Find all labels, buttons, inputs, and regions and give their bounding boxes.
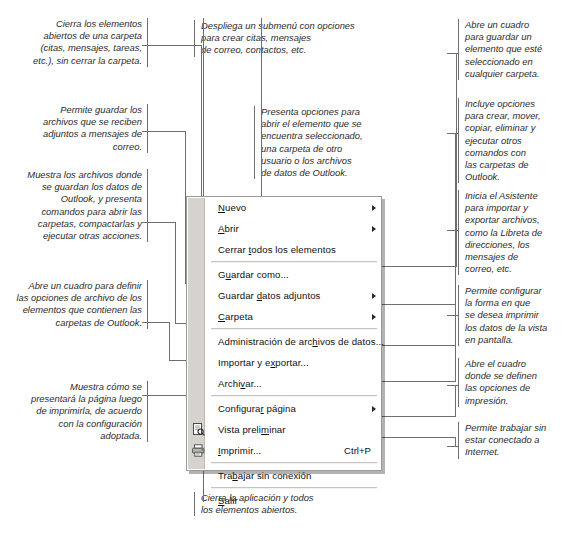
menu-item-salir[interactable]: Salir [187,490,381,511]
submenu-arrow-icon [372,293,376,299]
menu-item-abrir[interactable]: Abrir [187,218,381,239]
menu-item-imprimir[interactable]: Imprimir...Ctrl+P [187,440,381,461]
menu-separator [211,395,377,397]
leader-vista-preliminar [142,395,192,396]
note-carpeta: Incluye opciones para crear, mover, copi… [458,98,574,183]
leader-trabajar-tip [447,446,458,447]
leader-configurar-h [381,381,456,382]
note-trabajar-sin-conexion: Permite trabajar sin estar conectado a I… [458,422,574,459]
menu-separator [211,487,377,489]
leader-importar-tip [447,230,458,231]
note-vista-preliminar: Muestra cómo se presentará la página lue… [30,381,148,442]
menu-item-label: Nuevo [218,202,246,213]
menu-item-administracion-archivos-datos[interactable]: Administración de archivos de datos... [187,331,381,352]
note-imprimir: Abre el cuadro donde se definen las opci… [458,358,574,407]
menu-item-label: Abrir [218,223,239,234]
menu-item-guardar-como[interactable]: Guardar como... [187,264,381,285]
printer-icon [190,443,206,459]
submenu-arrow-icon [372,205,376,211]
leader-carpeta-h [381,304,456,305]
leader-cerrar-todos-a [142,45,202,46]
leader-trabajar-v [455,437,456,446]
leader-carpeta-tip [447,133,458,134]
leader-imprimir-tip [447,385,458,386]
menu-item-label: Archivar... [218,378,262,389]
menu-separator [211,462,377,464]
leader-admin-datos-v [175,222,176,323]
leader-admin-datos-a [142,222,176,223]
menu-item-label: Vista preliminar [218,424,286,435]
leader-nuevo-vertical [203,18,204,204]
menu-item-label: Guardar como... [218,269,289,280]
submenu-arrow-icon [372,226,376,232]
menu-item-trabajar-sin-conexion[interactable]: Trabajar sin conexión [187,465,381,486]
note-archivar: Abre un cuadro para definir las opciones… [16,280,148,329]
menu-item-label: Administración de archivos de datos... [218,336,384,347]
menu-item-vista-preliminar[interactable]: Vista preliminar [187,419,381,440]
menu-item-guardar-datos-adjuntos[interactable]: Guardar datos adjuntos [187,285,381,306]
menu-item-carpeta[interactable]: Carpeta [187,306,381,327]
note-abrir: Presenta opciones para abrir el elemento… [254,106,431,179]
menu-item-archivar[interactable]: Archivar... [187,373,381,394]
menu-item-importar-exportar[interactable]: Importar y exportar... [187,352,381,373]
menu-item-label: Cerrar todos los elementos [218,244,336,255]
note-configurar-pagina: Permite configurar la forma en que se de… [458,285,574,346]
note-guardar-datos-adjuntos: Permite guardar los archivos que se reci… [24,104,148,153]
menu-item-label: Salir [218,495,238,506]
submenu-arrow-icon [372,314,376,320]
menu-item-nuevo[interactable]: Nuevo [187,197,381,218]
menu-item-label: Trabajar sin conexión [218,470,311,481]
file-menu-popup[interactable]: NuevoAbrirCerrar todos los elementosGuar… [186,196,382,471]
leader-archivar-v [169,322,170,360]
leader-guardar-como-v [456,53,457,266]
leader-configurar-v [455,315,456,381]
menu-item-cerrar-todos[interactable]: Cerrar todos los elementos [187,239,381,260]
menu-item-shortcut: Ctrl+P [344,445,375,456]
print-preview-icon [190,422,206,438]
note-cerrar-todos: Cierra los elementos abiertos de una car… [24,18,148,67]
menu-item-label: Carpeta [218,311,253,322]
leader-guardar-adjuntos-a [142,131,186,132]
menu-item-label: Guardar datos adjuntos [218,290,320,301]
annotated-menu-figure: Cierra los elementos abiertos de una car… [0,0,574,536]
leader-archivar-a [142,322,170,323]
menu-item-label: Configurar página [218,403,296,414]
note-administracion-archivos-datos: Muestra los archivos donde se guardan lo… [16,169,148,242]
leader-abrir-vertical [261,18,262,225]
leader-guardar-como-tip [447,53,458,54]
menu-item-configurar-pagina[interactable]: Configurar página [187,398,381,419]
leader-imprimir-v [455,385,456,416]
menu-separator [211,261,377,263]
menu-item-list: NuevoAbrirCerrar todos los elementosGuar… [187,197,381,511]
menu-item-label: Importar y exportar... [218,357,309,368]
note-guardar-como: Abre un cuadro para guardar un elemento … [458,19,574,80]
menu-separator [211,328,377,330]
leader-configurar-tip [447,315,458,316]
submenu-arrow-icon [372,406,376,412]
note-nuevo: Despliega un submenú con opciones para c… [194,20,381,57]
menu-item-label: Imprimir... [218,445,261,456]
note-importar-exportar: Inicia el Asistente para importar y expo… [458,190,574,275]
